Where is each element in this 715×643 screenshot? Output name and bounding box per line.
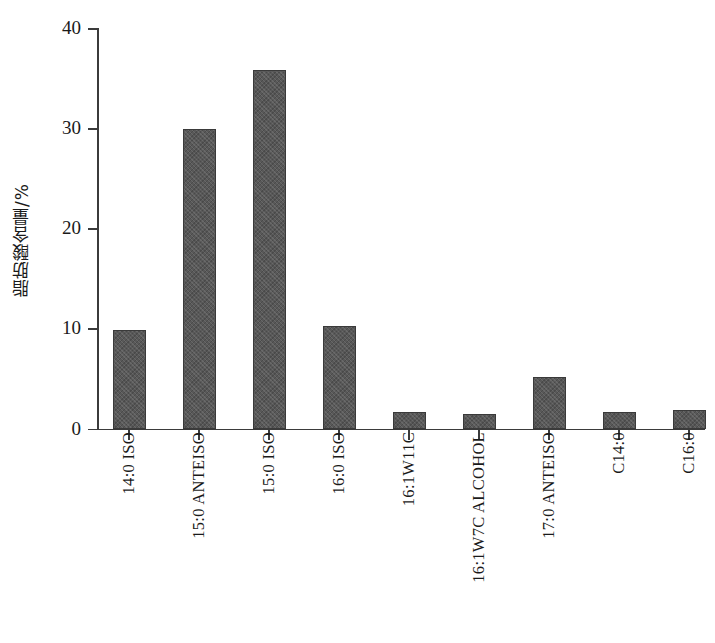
x-axis-label: 15:0 ISO	[261, 432, 277, 494]
bar	[603, 412, 636, 429]
x-axis-label: C14:0	[611, 432, 627, 474]
y-tick-30: 30	[88, 128, 97, 130]
bar	[393, 412, 426, 429]
bar	[253, 70, 286, 428]
y-tick-label-20: 20	[62, 218, 81, 237]
y-tick-label-0: 0	[72, 418, 82, 437]
x-axis-label: 16:1W7C ALCOHOL	[471, 432, 487, 583]
y-tick-label-40: 40	[62, 18, 81, 37]
x-axis-label: 14:0 ISO	[121, 432, 137, 494]
y-tick-label-10: 10	[62, 318, 81, 337]
bar-chart: 脂肪酸含量/% 010203040 14:0 ISO15:0 ANTEISO15…	[0, 0, 715, 643]
bar	[183, 129, 216, 428]
plot-area: 010203040	[97, 28, 705, 430]
x-axis-label: 17:0 ANTEISO	[541, 432, 557, 539]
x-axis-label: 16:0 ISO	[331, 432, 347, 494]
bar	[533, 377, 566, 428]
x-axis-label: 15:0 ANTEISO	[191, 432, 207, 539]
y-axis-title: 脂肪酸含量/%	[8, 150, 34, 330]
x-axis-labels: 14:0 ISO15:0 ANTEISO15:0 ISO16:0 ISO16:1…	[97, 432, 705, 637]
y-tick-40: 40	[88, 28, 97, 30]
y-tick-0: 0	[88, 429, 97, 431]
x-axis-line	[97, 429, 705, 431]
y-tick-20: 20	[88, 228, 97, 230]
bar	[463, 414, 496, 429]
bar	[673, 410, 706, 429]
x-axis-label: C16:0	[681, 432, 697, 474]
bar	[113, 330, 146, 428]
x-axis-label: 16:1W11C	[401, 432, 417, 506]
y-tick-label-30: 30	[62, 118, 81, 137]
y-tick-10: 10	[88, 328, 97, 330]
y-axis-line	[97, 28, 99, 430]
bar	[323, 326, 356, 428]
